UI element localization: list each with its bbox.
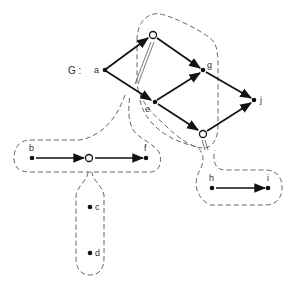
double-line <box>205 140 208 150</box>
label-c: c <box>95 202 100 212</box>
node-e <box>153 100 158 105</box>
edge-a-top <box>106 38 148 69</box>
node-g <box>201 68 206 73</box>
node-open-mid <box>86 155 93 162</box>
edge-top-g <box>157 38 200 68</box>
node-a <box>103 68 108 73</box>
label-a: a <box>94 65 99 75</box>
double-line <box>138 42 154 84</box>
label-d: d <box>95 248 100 258</box>
label-f: f <box>144 143 147 153</box>
edge-bottom-j <box>207 103 251 131</box>
label-b: b <box>29 143 34 153</box>
label-g: g <box>207 60 212 70</box>
edge-e-g <box>157 73 200 100</box>
edge-e-bottom <box>158 104 198 130</box>
edge-a-e <box>106 71 151 100</box>
node-b <box>30 156 35 161</box>
graph-diagram: G : a g e j b f c d h i <box>0 0 301 283</box>
label-e: e <box>145 104 150 114</box>
edge-g-j <box>206 72 251 98</box>
double-line <box>202 140 205 150</box>
cd-region-outline <box>76 172 104 275</box>
node-j <box>252 98 257 103</box>
node-open-bottom <box>200 131 207 138</box>
label-h: h <box>209 173 214 183</box>
node-h <box>210 186 215 191</box>
node-d <box>88 251 93 256</box>
node-f <box>144 156 149 161</box>
label-j: j <box>259 95 262 105</box>
node-c <box>88 205 93 210</box>
label-i: i <box>267 173 269 183</box>
graph-name-label: G : <box>68 65 81 76</box>
node-open-top <box>150 32 157 39</box>
node-i <box>266 186 271 191</box>
